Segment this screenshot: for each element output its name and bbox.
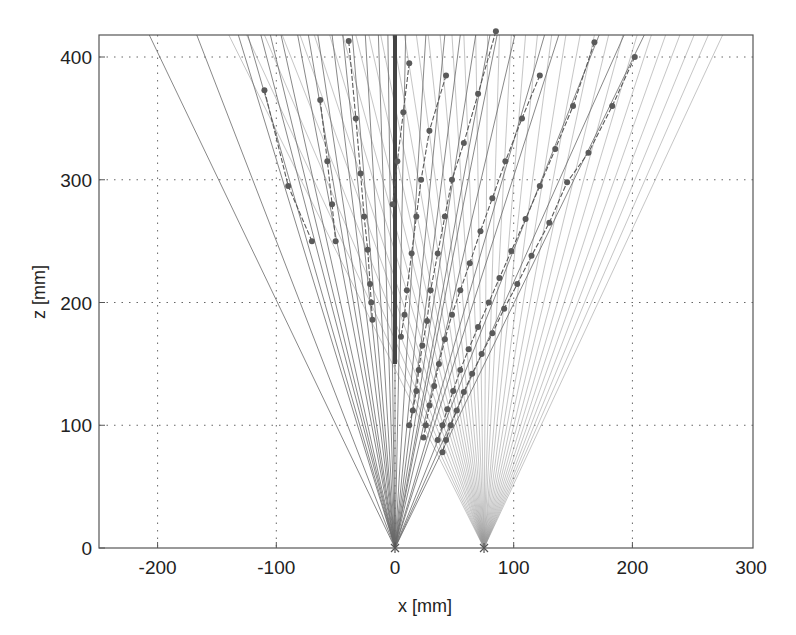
z-tick-label: 100 <box>60 415 92 436</box>
z-tick-label: 0 <box>81 538 92 559</box>
marker-dot <box>398 334 404 340</box>
marker-dot <box>365 247 371 253</box>
marker-dot <box>435 250 441 256</box>
marker-dot <box>537 183 543 189</box>
marker-dot <box>477 228 483 234</box>
x-tick-label: -100 <box>257 557 295 578</box>
axis-ticks: -200-10001002003000100200300400 <box>60 47 767 578</box>
marker-dot <box>546 220 552 226</box>
marker-dot <box>418 177 424 183</box>
marker-dot <box>428 287 434 293</box>
marker-dot <box>514 281 520 287</box>
marker-dot <box>324 158 330 164</box>
marker-dot <box>469 371 475 377</box>
marker-dot <box>404 287 410 293</box>
marker-dot <box>457 367 463 373</box>
marker-dot <box>426 403 432 409</box>
chain-line <box>264 90 311 241</box>
marker-dot <box>439 422 445 428</box>
marker-dot <box>523 216 529 222</box>
marker-dot <box>309 238 315 244</box>
x-tick-label: -200 <box>139 557 177 578</box>
marker-dot <box>496 275 502 281</box>
marker-dot <box>423 422 429 428</box>
marker-dot <box>502 158 508 164</box>
marker-dot <box>475 324 481 330</box>
marker-dot <box>420 435 426 441</box>
marker-dot <box>442 214 448 220</box>
x-axis-label: x [mm] <box>398 596 452 616</box>
marker-dot <box>409 250 415 256</box>
marker-dot <box>439 449 445 455</box>
marker-dot <box>424 318 430 324</box>
marker-dot <box>457 287 463 293</box>
marker-dot <box>444 406 450 412</box>
ray <box>270 35 395 548</box>
marker-dot <box>368 300 374 306</box>
marker-dot <box>508 248 514 254</box>
marker-dot <box>475 91 481 97</box>
marker-dot <box>591 39 597 45</box>
ray <box>484 35 694 548</box>
marker-dot <box>449 312 455 318</box>
marker-dot <box>346 38 352 44</box>
ray <box>332 35 395 548</box>
marker-dot <box>552 146 558 152</box>
marker-dot <box>461 140 467 146</box>
marker-dot <box>466 346 472 352</box>
ray <box>343 35 395 548</box>
y-axis-label: z [mm] <box>29 265 49 319</box>
ray-plot: -200-10001002003000100200300400 x [mm] z… <box>0 0 796 635</box>
marker-dot <box>317 97 323 103</box>
ray <box>484 35 594 548</box>
marker-dot <box>261 87 267 93</box>
ray <box>484 35 488 548</box>
marker-dot <box>400 109 406 115</box>
marker-dot <box>449 177 455 183</box>
marker-dot <box>431 383 437 389</box>
marker-dot <box>416 367 422 373</box>
marker-dot <box>413 388 419 394</box>
z-tick-label: 300 <box>60 170 92 191</box>
x-tick-label: 200 <box>617 557 649 578</box>
marker-dot <box>564 179 570 185</box>
marker-dot <box>329 201 335 207</box>
marker-dot <box>426 128 432 134</box>
ray <box>404 35 484 548</box>
ray <box>484 35 666 548</box>
x-tick-label: 100 <box>498 557 530 578</box>
marker-dot <box>609 103 615 109</box>
marker-dot <box>406 422 412 428</box>
marker-dot <box>367 281 373 287</box>
marker-dot <box>479 351 485 357</box>
marker-dot <box>442 336 448 342</box>
marker-dot <box>448 422 454 428</box>
marker-dot <box>461 389 467 395</box>
z-tick-label: 200 <box>60 293 92 314</box>
marker-dot <box>585 150 591 156</box>
marker-dot <box>519 115 525 121</box>
marker-dot <box>410 408 416 414</box>
marker-dot <box>632 54 638 60</box>
ray <box>378 35 395 548</box>
marker-dot <box>493 28 499 34</box>
marker-dot <box>537 72 543 78</box>
marker-dot <box>406 60 412 66</box>
z-tick-label: 400 <box>60 47 92 68</box>
marker-dot <box>358 171 364 177</box>
ray <box>395 35 545 548</box>
marker-dot <box>394 158 400 164</box>
marker-dot <box>486 300 492 306</box>
marker-dot <box>413 214 419 220</box>
marker-dot <box>401 312 407 318</box>
marker-dot <box>390 201 396 207</box>
ray <box>238 35 395 548</box>
ray <box>484 35 580 548</box>
marker-dot <box>333 238 339 244</box>
marker-dot <box>489 330 495 336</box>
marker-dot <box>436 361 442 367</box>
marker-dot <box>529 253 535 259</box>
marker-dot <box>443 72 449 78</box>
marker-dot <box>369 317 375 323</box>
marker-dot <box>450 388 456 394</box>
